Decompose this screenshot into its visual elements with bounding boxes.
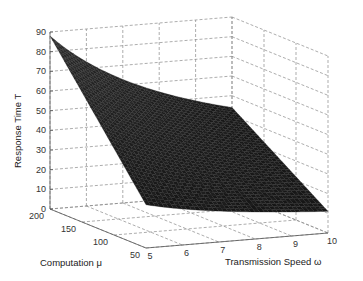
x-tick-label: 10 bbox=[327, 236, 337, 246]
z-tick-label: 40 bbox=[36, 125, 46, 135]
y-axis-label: Computation μ bbox=[40, 257, 102, 268]
z-tick-label: 80 bbox=[36, 47, 46, 57]
z-tick-label: 20 bbox=[36, 165, 46, 175]
x-axis-label: Transmission Speed ω bbox=[225, 256, 322, 267]
z-tick-label: 70 bbox=[36, 66, 46, 76]
z-tick-label: 10 bbox=[36, 184, 46, 194]
y-tick-label: 200 bbox=[29, 211, 44, 221]
surface-patch bbox=[50, 36, 57, 44]
z-tick-label: 30 bbox=[36, 145, 46, 155]
grid-line bbox=[232, 76, 328, 115]
z-tick-label: 60 bbox=[36, 86, 46, 96]
y-tick-label: 50 bbox=[130, 250, 140, 260]
z-tick-label: 90 bbox=[36, 27, 46, 37]
grid-line bbox=[114, 220, 296, 235]
x-tick-label: 8 bbox=[257, 242, 262, 252]
x-axis-line bbox=[146, 233, 328, 248]
z-axis-label: Response Time T bbox=[12, 94, 23, 168]
x-tick-label: 7 bbox=[220, 245, 225, 255]
grid-line bbox=[50, 37, 232, 52]
y-tick-label: 100 bbox=[93, 237, 108, 247]
x-tick-label: 6 bbox=[184, 248, 189, 258]
surface-plot: 0102030405060708090200150100505678910 Re… bbox=[0, 0, 363, 281]
grid-line bbox=[50, 17, 232, 32]
grid-line bbox=[232, 37, 328, 76]
grid-line bbox=[232, 17, 328, 56]
y-tick-label: 150 bbox=[61, 224, 76, 234]
grid-line bbox=[232, 56, 328, 95]
x-tick-label: 9 bbox=[293, 239, 298, 249]
x-tick-label: 5 bbox=[147, 251, 152, 261]
z-tick-label: 50 bbox=[36, 106, 46, 116]
